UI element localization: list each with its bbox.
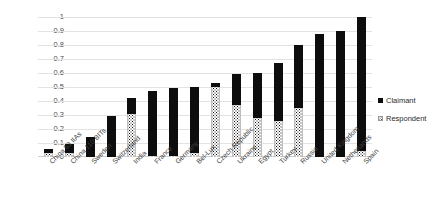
stacked-bar[interactable] [274, 63, 283, 157]
legend-label: Claimant [386, 96, 416, 105]
bar-slot [142, 17, 163, 157]
bar-segment-claimant [253, 73, 262, 118]
bar-segment-claimant [274, 63, 283, 120]
bar-segment-claimant [127, 98, 136, 113]
legend-item[interactable]: Claimant [378, 96, 426, 105]
bar-slot [122, 17, 143, 157]
bar-group [38, 17, 372, 157]
bar-segment-claimant [232, 74, 241, 105]
bar-slot [289, 17, 310, 157]
bar-slot [205, 17, 226, 157]
bar-segment-claimant [294, 45, 303, 108]
x-axis-labels: China 53 IIAsChina 110 BITsSwedenSwitzer… [38, 158, 372, 219]
stacked-bar[interactable] [148, 91, 157, 157]
bar-slot [101, 17, 122, 157]
bar-slot [309, 17, 330, 157]
stacked-bar[interactable] [315, 34, 324, 157]
bar-slot [38, 17, 59, 157]
legend-item[interactable]: Respondent [378, 114, 426, 123]
plot-area [38, 17, 372, 157]
dotted-square-icon [378, 116, 383, 121]
bar-slot [184, 17, 205, 157]
bar-slot [163, 17, 184, 157]
chart-legend: ClaimantRespondent [378, 96, 426, 132]
stacked-bar[interactable] [294, 45, 303, 157]
legend-label: Respondent [386, 114, 426, 123]
solid-black-square-icon [378, 98, 383, 103]
bar-slot [268, 17, 289, 157]
bar-segment-claimant [315, 34, 324, 157]
bar-segment-claimant [148, 91, 157, 155]
bar-slot [247, 17, 268, 157]
stacked-bar-chart: 10.90.80.70.60.50.40.30.20.10 China 53 I… [0, 0, 437, 219]
